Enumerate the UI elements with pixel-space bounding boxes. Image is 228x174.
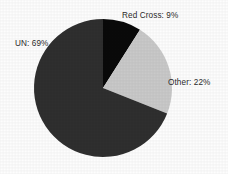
pie-label-red-cross: Red Cross: 9% bbox=[122, 12, 178, 20]
chart-plot-area: Red Cross: 9% Other: 22% UN: 69% bbox=[0, 0, 228, 174]
pie-slices bbox=[34, 19, 172, 157]
pie-label-other: Other: 22% bbox=[168, 79, 210, 87]
pie-chart-figure: Red Cross: 9% Other: 22% UN: 69% bbox=[0, 0, 228, 174]
pie-label-un: UN: 69% bbox=[15, 40, 48, 48]
